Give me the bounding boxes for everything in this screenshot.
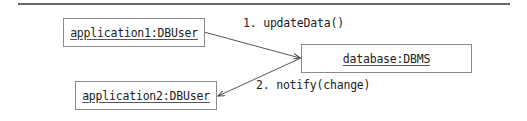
message-label-update: 1. updateData() bbox=[243, 16, 344, 30]
object-application2: application2:DBUser bbox=[75, 81, 217, 110]
object-application1: application1:DBUser bbox=[63, 18, 205, 47]
object-label: application1:DBUser bbox=[70, 26, 198, 40]
message-line-update bbox=[204, 32, 300, 58]
object-database: database:DBMS bbox=[301, 44, 472, 73]
collaboration-diagram: application1:DBUser database:DBMS applic… bbox=[0, 0, 527, 121]
object-label: database:DBMS bbox=[343, 52, 430, 66]
message-label-notify: 2. notify(change) bbox=[256, 78, 370, 92]
object-label: application2:DBUser bbox=[82, 89, 210, 103]
